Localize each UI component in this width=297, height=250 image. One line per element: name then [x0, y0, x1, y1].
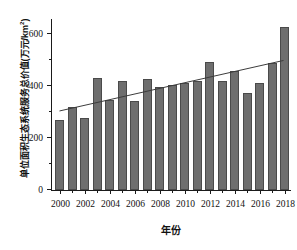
y-axis-title-text: 单位面积生态系统服务总价值(万元/km [20, 25, 30, 179]
x-tick-minor-2013 [222, 190, 223, 193]
x-tick-minor-2001 [72, 190, 73, 193]
y-tick-minor-100 [49, 163, 52, 164]
x-tick-minor-2005 [122, 190, 123, 193]
y-tick-minor-500 [49, 59, 52, 60]
y-tick-200: 200 [47, 137, 52, 138]
x-tick-minor-2015 [247, 190, 248, 193]
x-tick-minor-2007 [147, 190, 148, 193]
trend-line [52, 19, 291, 190]
x-tick-label-2012: 2012 [201, 199, 220, 209]
x-tick-label-2008: 2008 [151, 199, 170, 209]
y-tick-label-200: 200 [29, 133, 43, 143]
x-tick-2002: 2002 [85, 190, 86, 194]
chart-figure: 单位面积生态系统服务总价值(万元/km2) 0200400600 2000200… [0, 0, 297, 250]
x-tick-label-2018: 2018 [276, 199, 295, 209]
x-tick-minor-2011 [197, 190, 198, 193]
trend-line-path [59, 60, 283, 111]
y-axis-title-superscript: 2 [19, 22, 25, 25]
x-tick-minor-2017 [272, 190, 273, 193]
x-tick-2006: 2006 [135, 190, 136, 194]
x-tick-2000: 2000 [60, 190, 61, 194]
y-tick-0: 0 [47, 189, 52, 190]
x-tick-label-2004: 2004 [101, 199, 120, 209]
x-tick-2010: 2010 [185, 190, 186, 194]
x-tick-label-2014: 2014 [226, 199, 245, 209]
x-tick-label-2016: 2016 [251, 199, 270, 209]
x-tick-label-2000: 2000 [51, 199, 70, 209]
y-tick-label-0: 0 [38, 185, 43, 195]
x-tick-2016: 2016 [260, 190, 261, 194]
x-tick-minor-2009 [172, 190, 173, 193]
x-tick-2008: 2008 [160, 190, 161, 194]
y-tick-minor-300 [49, 111, 52, 112]
y-tick-label-600: 600 [29, 29, 43, 39]
x-tick-2018: 2018 [285, 190, 286, 194]
y-tick-600: 600 [47, 33, 52, 34]
plot-area: 0200400600 20002002200420062008201020122… [51, 19, 291, 191]
x-tick-label-2002: 2002 [76, 199, 95, 209]
x-tick-2014: 2014 [235, 190, 236, 194]
y-tick-label-400: 400 [29, 81, 43, 91]
x-tick-2012: 2012 [210, 190, 211, 194]
y-axis-title-tail: ) [20, 19, 30, 22]
y-tick-400: 400 [47, 85, 52, 86]
x-axis-title: 年份 [51, 222, 291, 237]
x-tick-2004: 2004 [110, 190, 111, 194]
x-tick-label-2006: 2006 [126, 199, 145, 209]
x-tick-label-2010: 2010 [176, 199, 195, 209]
x-tick-minor-2003 [97, 190, 98, 193]
